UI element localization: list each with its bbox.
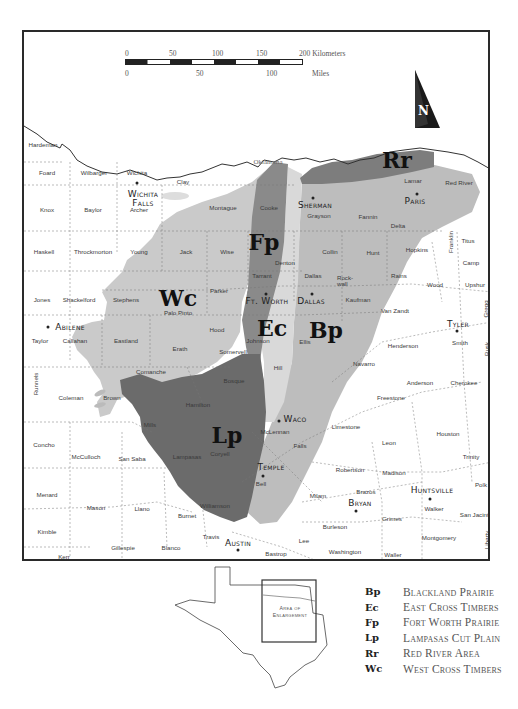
county-label: Henderson <box>388 343 418 349</box>
county-label: Robertson <box>336 467 365 473</box>
city-label: Ft. Worth <box>246 297 289 306</box>
scale-mi-0: 0 <box>125 69 129 78</box>
county-label: Washington <box>329 549 361 555</box>
north-label: N <box>418 104 429 118</box>
scale-bar-graphic <box>125 59 305 66</box>
county-label: Delta <box>391 223 405 229</box>
county-label: Blanco <box>162 545 181 551</box>
county-label: Polk <box>475 482 487 488</box>
county-label: Clay <box>177 179 189 185</box>
county-label: Titus <box>461 238 474 244</box>
inset-label-line1: Area of <box>280 605 301 611</box>
county-label: Cherokee <box>451 380 478 386</box>
scale-km-100: 100 <box>212 49 223 58</box>
city-label: Waco <box>283 415 306 424</box>
scale-km-200: 200 Kilometers <box>299 49 345 58</box>
legend-code: Wc <box>365 663 403 674</box>
north-arrow-icon: N <box>412 68 442 132</box>
city-dot-icon <box>429 498 432 501</box>
legend-item-fp: FpFort Worth Prairie <box>365 615 502 630</box>
county-label: Jack <box>180 249 193 255</box>
city-label: Abilene <box>55 323 85 332</box>
county-label: Milam <box>310 493 327 499</box>
city-dot-icon <box>237 549 240 552</box>
county-label: Young <box>130 249 147 255</box>
county-label: Rock- wall <box>337 275 353 287</box>
city-dot-icon <box>278 420 281 423</box>
county-label: Fannin <box>359 214 378 220</box>
county-label: Wichita <box>127 170 147 176</box>
county-label: Waller <box>384 552 401 558</box>
city-label: Sherman <box>298 201 332 210</box>
legend-code: Lp <box>365 632 403 643</box>
county-label: Smith <box>452 340 468 346</box>
region-label-wc: Wc <box>159 287 197 309</box>
legend-item-bp: BpBlackland Prairie <box>365 584 502 599</box>
city-label: Dallas <box>297 297 325 306</box>
legend-name: East Cross Timbers <box>403 601 499 613</box>
county-label: Parker <box>210 288 228 294</box>
county-label: Bastrop <box>265 551 286 557</box>
scale-mi-100: 100 <box>266 69 277 78</box>
texas-inset-map: Area of Enlargement <box>175 565 335 699</box>
county-label: Hardeman <box>29 142 58 148</box>
county-label: Callahan <box>63 338 87 344</box>
texas-outline-icon <box>175 565 335 695</box>
scale-mi-50: 50 <box>196 69 204 78</box>
county-label: Eastland <box>114 338 138 344</box>
county-label: Gregg <box>483 300 489 317</box>
city-label: Bryan <box>348 499 371 508</box>
inset-label-line2: Enlargement <box>273 612 308 618</box>
city-label: Temple <box>257 463 284 472</box>
county-label: Baylor <box>84 207 102 213</box>
legend-code: Rr <box>365 648 403 659</box>
county-label: Coryell <box>210 451 229 457</box>
county-label: Grayson <box>307 213 330 219</box>
county-label: Hamilton <box>186 402 210 408</box>
region-label-bp: Bp <box>309 319 343 341</box>
city-label: Wichita Falls <box>128 190 159 207</box>
county-label: Red River <box>445 180 473 186</box>
city-label: Huntsville <box>411 486 453 495</box>
county-label: Gillespie <box>111 545 135 551</box>
county-label: McCulloch <box>72 454 101 460</box>
county-label: Falls <box>293 443 306 449</box>
city-dot-icon <box>47 326 50 329</box>
legend-code: Bp <box>365 586 403 597</box>
scale-km-50: 50 <box>169 49 177 58</box>
city-label: Paris <box>405 197 426 206</box>
legend-name: Red River Area <box>403 647 480 659</box>
county-label: Lamar <box>404 178 422 184</box>
county-label: Kerr <box>58 554 70 560</box>
county-label: Montague <box>209 205 237 211</box>
county-label: Denton <box>275 260 295 266</box>
county-label: Dallas <box>304 273 321 279</box>
county-label: Throckmorton <box>74 249 112 255</box>
county-label: Camp <box>463 260 480 266</box>
county-label: Wood <box>427 282 443 288</box>
city-label: Tyler <box>447 320 469 329</box>
county-label: Comanche <box>136 369 166 375</box>
county-label: Kimble <box>38 529 57 535</box>
county-label: Liberty <box>484 531 490 550</box>
county-label: Taylor <box>32 338 49 344</box>
county-label: Kaufman <box>346 297 371 303</box>
county-label: Knox <box>40 207 54 213</box>
county-label: Runnels <box>33 373 39 396</box>
county-label: Brown <box>103 395 121 401</box>
county-label: Llano <box>134 506 149 512</box>
county-label: Hopkins <box>406 247 428 253</box>
county-label: Collin <box>322 249 337 255</box>
legend-item-rr: RrRed River Area <box>365 646 502 661</box>
county-label: Wilbarger <box>81 170 107 176</box>
county-label: Stephens <box>113 297 139 303</box>
legend-name: West Cross Timbers <box>403 663 502 675</box>
city-label: Austin <box>225 539 251 548</box>
county-label: Mills <box>144 422 156 428</box>
legend-name: Blackland Prairie <box>403 586 494 598</box>
legend-name: Fort Worth Prairie <box>403 616 499 628</box>
county-label: Somervell <box>219 349 247 355</box>
county-label: Haskell <box>34 249 54 255</box>
legend-item-wc: WcWest Cross Timbers <box>365 661 502 676</box>
county-label: Burnet <box>178 513 196 519</box>
